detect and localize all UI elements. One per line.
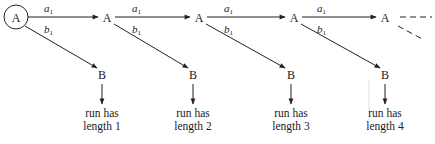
svg-text:a1: a1 (132, 2, 142, 16)
svg-text:run has: run has (85, 107, 119, 119)
outcome-1: run has length 1 (83, 107, 121, 133)
start-node: A (4, 5, 28, 29)
outcome-3: run has length 3 (272, 107, 310, 133)
svg-text:run has: run has (368, 107, 402, 119)
svg-text:b1: b1 (224, 23, 234, 37)
node-b-1: B (98, 68, 106, 82)
svg-text:length 2: length 2 (174, 120, 212, 133)
svg-text:length 3: length 3 (272, 120, 310, 133)
svg-text:run has: run has (274, 107, 308, 119)
svg-text:length 1: length 1 (83, 120, 121, 133)
svg-text:length 4: length 4 (366, 120, 404, 133)
continuation-dashes (398, 17, 432, 40)
edge-labels-b1: b1 b1 b1 b1 (44, 23, 327, 37)
node-b-2: B (189, 68, 197, 82)
svg-text:a1: a1 (317, 2, 327, 16)
run-length-diagram: A A A A A a1 a1 a1 a1 b1 b1 b1 b1 B B B … (0, 0, 435, 144)
node-b-3: B (287, 68, 295, 82)
svg-text:run has: run has (176, 107, 210, 119)
svg-text:b1: b1 (317, 23, 327, 37)
edge-b-to-outcome (102, 84, 385, 104)
edge-labels-a1: a1 a1 a1 a1 (44, 2, 327, 16)
svg-text:a1: a1 (44, 2, 54, 16)
node-a-3: A (195, 11, 204, 25)
node-b-4: B (381, 68, 389, 82)
outcome-4: run has length 4 (366, 107, 404, 133)
node-a-5: A (381, 11, 390, 25)
svg-text:a1: a1 (224, 2, 234, 16)
svg-text:b1: b1 (132, 23, 142, 37)
svg-text:b1: b1 (44, 23, 54, 37)
edge-b1 (25, 24, 380, 68)
node-a-4: A (290, 11, 299, 25)
outcome-2: run has length 2 (174, 107, 212, 133)
svg-text:A: A (12, 11, 21, 25)
node-a-2: A (103, 11, 112, 25)
